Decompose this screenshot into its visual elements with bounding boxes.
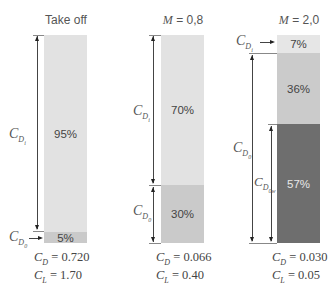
label-cd0: CD0 [133, 203, 151, 222]
segment-label: 95% [54, 128, 77, 140]
arrow-up-icon [250, 55, 254, 60]
dimension-tick [149, 185, 161, 186]
label-cdi: CDi [133, 103, 150, 122]
arrow-right-icon [270, 40, 275, 44]
dimension-line [153, 36, 154, 183]
segment-label: 70% [171, 104, 194, 116]
label-cd0: CD0 [233, 140, 251, 159]
formula-cd-m08: CD = 0.066 [156, 250, 212, 267]
arrow-down-icon [35, 225, 39, 230]
segment-zero-lift-drag: 5% [44, 232, 87, 243]
label-cdi: CDi [9, 126, 26, 145]
formula-cl-takeoff: CL = 1.70 [34, 268, 82, 285]
arrow-down-icon [250, 237, 254, 242]
arrow-down-icon [269, 237, 273, 242]
dimension-tick [249, 53, 277, 54]
segment-zero-lift-drag: 36% [277, 53, 320, 124]
arrow-down-icon [151, 237, 155, 242]
dimension-line [37, 36, 38, 229]
title-takeoff: Take off [16, 13, 116, 27]
segment-induced-drag: 70% [161, 35, 204, 185]
dimension-tick [249, 243, 277, 244]
label-cd0w: CD0w [254, 174, 275, 193]
segment-induced-drag: 95% [44, 35, 87, 232]
segment-label: 57% [287, 178, 310, 190]
mach-value: = 0,8 [173, 13, 203, 27]
segment-label: 30% [171, 208, 194, 220]
arrow-right-icon [38, 236, 43, 240]
dimension-tick [149, 243, 161, 244]
dimension-line [252, 55, 253, 241]
label-cdi: CDi [236, 33, 253, 52]
segment-zero-lift-drag: 30% [161, 185, 204, 243]
formula-cl-m20: CL = 0.05 [272, 268, 320, 285]
segment-wave-drag: 57% [277, 124, 320, 243]
segment-label: 5% [57, 232, 74, 244]
arrow-down-icon [151, 179, 155, 184]
segment-induced-drag: 7% [277, 35, 320, 53]
mach-symbol: M [163, 13, 173, 27]
formula-cl-m08: CL = 0.40 [156, 268, 204, 285]
mach-value: = 2,0 [289, 13, 319, 27]
title-mach-0-8: M = 0,8 [133, 13, 233, 28]
arrow-up-icon [35, 36, 39, 41]
dimension-tick [33, 231, 44, 232]
arrow-up-icon [269, 126, 273, 131]
formula-cd-takeoff: CD = 0.720 [34, 250, 90, 267]
title-mach-2-0: M = 2,0 [249, 13, 330, 28]
label-cd0: CD0 [9, 229, 27, 248]
arrow-up-icon [151, 36, 155, 41]
segment-label: 7% [290, 38, 307, 50]
segment-label: 36% [287, 83, 310, 95]
arrow-up-icon [151, 187, 155, 192]
formula-cd-m20: CD = 0.030 [272, 250, 328, 267]
dimension-tick [268, 124, 277, 125]
mach-symbol: M [279, 13, 289, 27]
dimension-line [153, 187, 154, 242]
